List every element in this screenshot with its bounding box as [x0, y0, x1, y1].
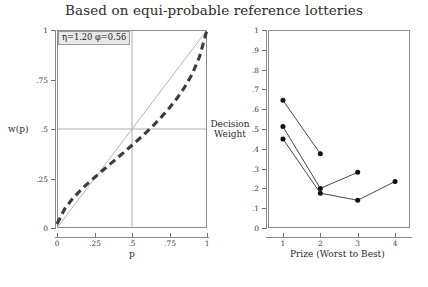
right-xaxis-line: [266, 237, 412, 238]
left-yaxis-line: [55, 30, 56, 229]
right-ytick-label: .7: [245, 85, 259, 94]
decision-weight-line: [283, 127, 358, 189]
left-xtick-label: .75: [161, 239, 179, 248]
data-point-marker: [280, 124, 285, 129]
right-ytick-mark: [262, 109, 266, 110]
left-xtick-label: .25: [86, 239, 104, 248]
data-point-marker: [280, 136, 285, 141]
right-ytick-mark: [262, 129, 266, 130]
left-xtick-mark: [207, 233, 208, 237]
right-ytick-label: .2: [245, 184, 259, 193]
right-xtick-mark: [283, 233, 284, 237]
right-ytick-label: .4: [245, 144, 259, 153]
right-xtick-label: 2: [311, 239, 329, 248]
left-ytick-label: 1: [34, 26, 48, 35]
right-xtick-label: 4: [386, 239, 404, 248]
right-ytick-mark: [262, 70, 266, 71]
left-plot-panel: [57, 30, 207, 228]
right-ytick-label: 0: [245, 224, 259, 233]
right-ytick-label: .9: [245, 45, 259, 54]
right-xaxis-title: Prize (Worst to Best): [290, 249, 385, 259]
figure-footer: [0, 279, 428, 287]
left-xtick-mark: [95, 233, 96, 237]
left-yaxis-title: w(p): [8, 124, 29, 134]
right-xtick-mark: [358, 233, 359, 237]
data-point-marker: [318, 191, 323, 196]
right-ytick-mark: [262, 208, 266, 209]
right-ytick-label: .3: [245, 164, 259, 173]
left-xtick-mark: [132, 233, 133, 237]
left-ytick-label: .75: [34, 75, 48, 84]
data-point-marker: [355, 198, 360, 203]
left-ytick-label: 0: [34, 224, 48, 233]
right-xtick-mark: [395, 233, 396, 237]
left-ytick-label: .25: [34, 174, 48, 183]
right-yaxis-title: Decision Weight: [199, 119, 261, 140]
decision-weight-series-group: [280, 98, 397, 203]
left-xtick-mark: [170, 233, 171, 237]
right-ytick-mark: [262, 149, 266, 150]
right-ytick-label: 1: [245, 26, 259, 35]
right-yaxis-line: [266, 30, 267, 229]
right-ytick-mark: [262, 89, 266, 90]
left-xtick-mark: [57, 233, 58, 237]
right-ytick-mark: [262, 50, 266, 51]
right-ytick-label: .6: [245, 105, 259, 114]
right-plot-panel: [268, 30, 410, 228]
data-point-marker: [318, 151, 323, 156]
right-ytick-mark: [262, 169, 266, 170]
right-ytick-mark: [262, 228, 266, 229]
right-ytick-label: .1: [245, 204, 259, 213]
right-ytick-mark: [262, 30, 266, 31]
right-yaxis-title-line1: Decision: [210, 119, 249, 129]
right-ytick-label: .8: [245, 65, 259, 74]
left-xaxis-title: p: [129, 249, 135, 259]
data-point-marker: [393, 179, 398, 184]
left-ytick-label: .5: [34, 125, 48, 134]
left-xtick-label: 1: [198, 239, 216, 248]
right-yaxis-title-line2: Weight: [214, 129, 246, 139]
right-xtick-mark: [320, 233, 321, 237]
decision-weight-line: [283, 139, 395, 200]
left-plot-svg: [57, 30, 207, 228]
parameter-annotation: η=1.20 φ=0.56: [58, 31, 130, 45]
decision-weight-line: [283, 100, 320, 153]
figure-title: Based on equi-probable reference lotteri…: [0, 2, 428, 18]
right-xtick-label: 3: [349, 239, 367, 248]
left-xtick-label: 0: [48, 239, 66, 248]
right-ytick-mark: [262, 188, 266, 189]
data-point-marker: [280, 98, 285, 103]
right-xtick-label: 1: [274, 239, 292, 248]
left-xaxis-line: [55, 237, 209, 238]
data-point-marker: [355, 170, 360, 175]
figure-container: Based on equi-probable reference lotteri…: [0, 0, 428, 287]
right-plot-svg: [268, 30, 410, 228]
left-xtick-label: .5: [123, 239, 141, 248]
